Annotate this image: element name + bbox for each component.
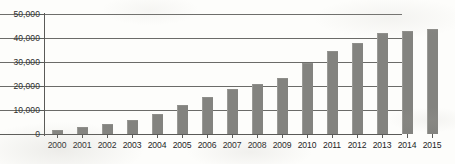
bar-chart: 50,000 40,000 30,000 20,000 10,000 0 200… bbox=[0, 0, 455, 164]
x-axis-labels: 2000 2001 2002 2003 2004 2005 2006 2007 … bbox=[0, 0, 455, 164]
x-axis-label-2015: 2015 bbox=[415, 141, 449, 150]
